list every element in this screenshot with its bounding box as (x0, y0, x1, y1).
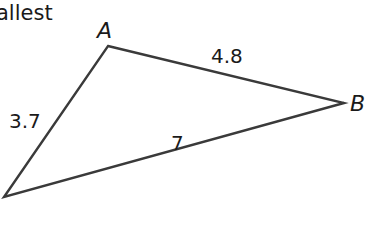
vertex-label-b: B (350, 93, 365, 115)
triangle-abc (4, 46, 344, 197)
vertex-label-a: A (97, 20, 112, 42)
triangle-diagram (0, 0, 375, 240)
side-label-ac: 3.7 (9, 111, 41, 131)
side-label-ab: 4.8 (211, 46, 243, 66)
side-label-bc: 7 (171, 133, 184, 153)
